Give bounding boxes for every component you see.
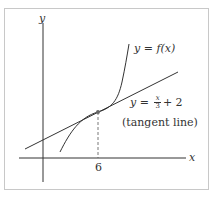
curve-label-func: f(x) xyxy=(156,42,175,55)
curve-label: y = f(x) xyxy=(134,43,175,54)
tangent-label-prefix: y = xyxy=(130,96,152,109)
y-axis-label: y xyxy=(39,13,45,24)
tangency-point xyxy=(96,110,100,114)
curve-label-prefix: y = xyxy=(134,42,156,55)
tangent-label-suffix: + 2 xyxy=(163,96,183,109)
tangent-note-label: (tangent line) xyxy=(122,117,198,128)
function-curve xyxy=(60,44,129,152)
graph-canvas xyxy=(0,0,221,198)
tangent-equation-label: y = x3+ 2 xyxy=(130,95,183,110)
x-tick-label-6: 6 xyxy=(95,162,102,173)
tangent-fraction: x3 xyxy=(154,95,160,110)
x-axis-label: x xyxy=(189,152,195,163)
fraction-denominator: 3 xyxy=(154,103,160,110)
